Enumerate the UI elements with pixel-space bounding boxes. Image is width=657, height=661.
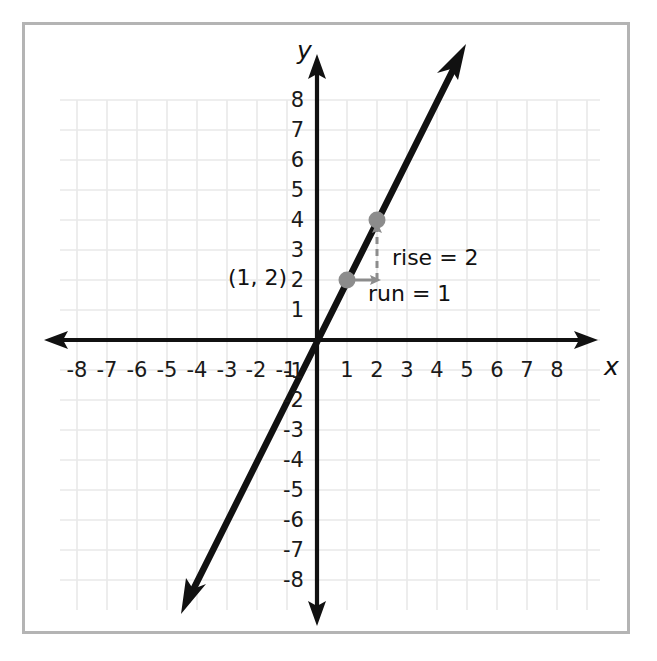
y-tick-label: 1 (276, 298, 304, 322)
y-tick-label: 6 (276, 148, 304, 172)
x-tick-label: -4 (187, 358, 208, 382)
y-tick-label: -5 (271, 478, 304, 502)
x-tick-label: 6 (490, 358, 503, 382)
y-tick-label: -3 (271, 418, 304, 442)
grid-lines (60, 100, 600, 610)
y-tick-label: 8 (276, 88, 304, 112)
x-tick-label: 8 (550, 358, 563, 382)
y-tick-label: 3 (276, 238, 304, 262)
y-tick-label: -4 (271, 448, 304, 472)
y-axis-label: y (297, 36, 312, 65)
point-coordinate-label: (1, 2) (228, 265, 287, 290)
y-tick-label: -2 (271, 388, 304, 412)
y-tick-label: -1 (271, 359, 304, 383)
figure-canvas: x y -8 -7 -6 -5 -4 -3 -2 -1 1 2 3 4 5 6 … (0, 0, 657, 661)
x-axis-label: x (604, 352, 619, 381)
x-tick-label: 2 (370, 358, 383, 382)
x-tick-label: 1 (340, 358, 353, 382)
x-tick-label: 3 (400, 358, 413, 382)
coordinate-plane (0, 0, 657, 661)
point-marker-1-2 (339, 272, 356, 289)
y-tick-label: 5 (276, 178, 304, 202)
x-tick-label: -2 (246, 358, 267, 382)
x-tick-label: 7 (520, 358, 533, 382)
x-tick-label: -8 (67, 358, 88, 382)
y-tick-label: -6 (271, 508, 304, 532)
y-tick-label: -8 (271, 568, 304, 592)
x-tick-label: 4 (430, 358, 443, 382)
x-tick-label: -7 (97, 358, 118, 382)
run-label: run = 1 (368, 281, 451, 306)
x-tick-label: -3 (217, 358, 238, 382)
x-tick-label: -6 (127, 358, 148, 382)
point-marker-2-4 (369, 212, 386, 229)
x-tick-label: -5 (157, 358, 178, 382)
y-tick-label: 7 (276, 118, 304, 142)
y-tick-label: -7 (271, 538, 304, 562)
y-tick-label: 4 (276, 208, 304, 232)
rise-label: rise = 2 (392, 245, 479, 270)
x-tick-label: 5 (460, 358, 473, 382)
